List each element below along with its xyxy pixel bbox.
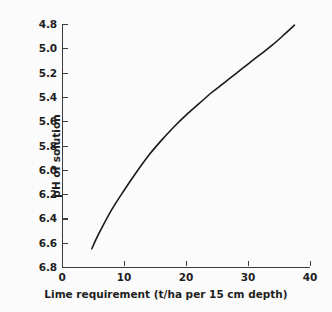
y-axis-title: pH of solution — [50, 114, 62, 197]
y-tick-label: 5.2 — [39, 67, 57, 79]
x-tick-label: 20 — [179, 271, 193, 283]
y-tick-label: 6.8 — [39, 261, 57, 273]
y-tick-label: 5.0 — [39, 42, 57, 54]
y-tick-label: 6.6 — [39, 237, 57, 249]
line-series-path — [92, 25, 295, 249]
plot-area: 4.85.05.25.45.65.86.06.26.46.66.8 010203… — [62, 24, 310, 267]
x-axis-line — [62, 267, 310, 268]
y-tick-mark — [63, 267, 68, 268]
data-curve — [62, 24, 310, 267]
x-tick-label: 30 — [241, 271, 255, 283]
chart-figure: 4.85.05.25.45.65.86.06.26.46.66.8 010203… — [0, 0, 332, 312]
x-tick-label: 0 — [58, 271, 65, 283]
y-tick-label: 4.8 — [39, 18, 57, 30]
x-axis-title: Lime requirement (t/ha per 15 cm depth) — [0, 288, 332, 300]
y-tick-label: 6.4 — [39, 212, 57, 224]
y-tick-label: 5.4 — [39, 91, 57, 103]
x-tick-label: 10 — [117, 271, 131, 283]
x-tick-label: 40 — [303, 271, 317, 283]
x-tick-mark — [310, 261, 311, 266]
